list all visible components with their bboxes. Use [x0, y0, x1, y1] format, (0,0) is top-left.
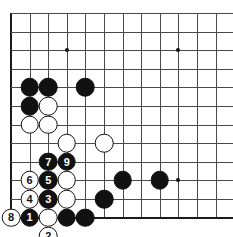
white-stone — [58, 190, 77, 209]
move-number-label: 7 — [45, 156, 51, 167]
go-board-diagram: 796543812 — [0, 0, 233, 237]
black-stone — [20, 78, 39, 97]
move-stone-6: 6 — [20, 171, 39, 190]
board-grid-line-vertical — [85, 13, 86, 218]
move-stone-3: 3 — [39, 190, 58, 209]
move-stone-1: 1 — [20, 208, 39, 227]
move-number-label: 1 — [27, 212, 33, 223]
move-stone-4: 4 — [20, 190, 39, 209]
move-stone-9: 9 — [58, 153, 77, 172]
move-number-label: 8 — [8, 212, 14, 223]
move-stone-7: 7 — [39, 153, 58, 172]
white-stone — [39, 97, 58, 116]
move-number-label: 4 — [27, 194, 33, 205]
board-grid-line-horizontal — [11, 69, 233, 70]
black-stone — [20, 97, 39, 116]
board-grid-line-vertical — [141, 13, 142, 218]
white-stone — [58, 171, 77, 190]
black-stone — [76, 78, 95, 97]
move-stone-2: 2 — [39, 227, 58, 237]
move-stone-8: 8 — [2, 208, 21, 227]
black-stone — [95, 190, 114, 209]
board-grid-line-vertical — [104, 13, 105, 218]
move-number-label: 2 — [45, 231, 51, 237]
black-stone — [151, 171, 170, 190]
move-stone-5: 5 — [39, 171, 58, 190]
star-point — [176, 178, 180, 182]
star-point — [65, 48, 69, 52]
board-grid-line-horizontal — [11, 143, 233, 144]
white-stone — [95, 134, 114, 153]
white-stone — [39, 208, 58, 227]
board-grid-line-horizontal — [11, 32, 233, 33]
black-stone — [113, 171, 132, 190]
board-edge-line-left — [10, 13, 12, 218]
star-point — [176, 48, 180, 52]
black-stone — [76, 208, 95, 227]
board-grid-line-horizontal — [11, 50, 233, 51]
board-grid-line-horizontal — [11, 13, 233, 14]
move-number-label: 9 — [64, 156, 70, 167]
white-stone — [58, 134, 77, 153]
board-grid-line-vertical — [178, 13, 179, 218]
black-stone — [39, 78, 58, 97]
board-grid-line-vertical — [197, 13, 198, 218]
move-number-label: 5 — [45, 175, 51, 186]
white-stone — [39, 115, 58, 134]
black-stone — [58, 208, 77, 227]
move-number-label: 6 — [27, 175, 33, 186]
white-stone — [20, 115, 39, 134]
move-number-label: 3 — [45, 194, 51, 205]
board-grid-line-vertical — [216, 13, 217, 218]
